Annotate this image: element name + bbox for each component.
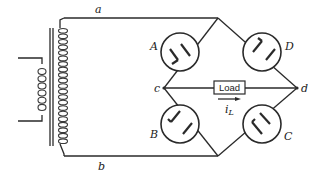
label-tube-b: B xyxy=(149,128,158,141)
label-tube-c: C xyxy=(284,130,293,143)
label-b: b xyxy=(98,160,105,173)
label-tube-a: A xyxy=(149,40,158,53)
node-d-dot xyxy=(295,86,298,89)
label-c: c xyxy=(154,82,160,95)
label-d: d xyxy=(301,82,308,95)
transformer-core xyxy=(50,28,53,146)
label-tube-d: D xyxy=(284,40,294,53)
load-label: Load xyxy=(219,82,240,93)
node-c-dot xyxy=(162,86,165,89)
secondary-winding xyxy=(59,18,68,156)
current-label: iL xyxy=(225,103,234,117)
tube-a xyxy=(161,33,199,71)
current-arrow xyxy=(218,97,241,101)
tube-b xyxy=(161,105,199,143)
label-a: a xyxy=(95,3,102,16)
bridge-rectifier-diagram: Load iL a b c d A B C D xyxy=(0,0,323,177)
tube-d xyxy=(243,33,281,71)
primary-winding xyxy=(18,58,46,121)
tube-c xyxy=(243,105,281,143)
